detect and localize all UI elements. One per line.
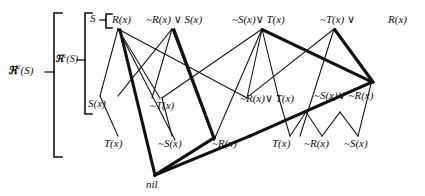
outer-bracket [54, 13, 62, 157]
outer-bracket-label: ℜ2(S) [8, 65, 33, 76]
clause-node-not-r-x-or-s-x[interactable]: ~R(x) ∨ S(x) [146, 14, 202, 25]
clause-node-not-s-x-or-not-r-x[interactable]: ~S(x)∨ ~R(x) [314, 90, 373, 101]
clause-node-r-x-right[interactable]: R(x) [388, 14, 407, 25]
resolution-tree-figure: ℜ2(S) ℜ1(S) S R(x) ~R(x) ∨ S(x) ~S(x)∨ T… [0, 0, 425, 196]
set-label: S [90, 13, 96, 24]
clause-node-not-r-x-bottom[interactable]: ~R(x) [212, 138, 237, 149]
clause-node-t-x-bottom[interactable]: T(x) [104, 138, 122, 149]
clause-node-not-r-x-or-t-x[interactable]: ~R(x)∨ T(x) [240, 93, 294, 104]
clause-node-not-s-x-or-t-x[interactable]: ~S(x)∨ T(x) [232, 14, 285, 25]
inner-bracket-label: ℜ1(S) [55, 53, 78, 64]
clause-node-not-s-x-bottom[interactable]: ~S(x) [158, 138, 182, 149]
clause-node-not-s-x-bottom-2[interactable]: ~S(x) [344, 138, 368, 149]
clause-node-not-t-x-mid[interactable]: ~T(x) [150, 100, 174, 111]
resolution-edges-thin [100, 29, 372, 140]
clause-node-t-x-bottom-2[interactable]: T(x) [272, 138, 290, 149]
clause-node-not-r-x-bottom-2[interactable]: ~R(x) [304, 138, 329, 149]
clause-node-nil[interactable]: nil [146, 179, 158, 190]
clause-node-not-t-x-or[interactable]: ~T(x) ∨ [320, 14, 355, 25]
clause-node-s-x-mid[interactable]: S(x) [88, 98, 106, 109]
clause-node-r-x[interactable]: R(x) [112, 14, 131, 25]
